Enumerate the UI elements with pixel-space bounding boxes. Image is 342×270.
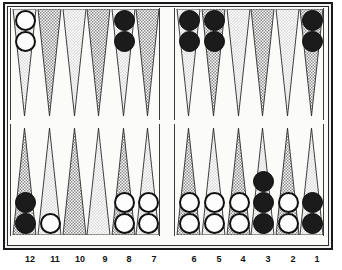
point-top_right-1[interactable] — [201, 9, 226, 117]
point-12[interactable] — [12, 127, 37, 235]
point-top_right-4[interactable] — [275, 9, 300, 117]
checker-black[interactable] — [253, 192, 274, 213]
point-top_right-3[interactable] — [250, 9, 275, 117]
checker-white[interactable] — [278, 192, 299, 213]
point-4[interactable] — [226, 127, 251, 235]
point-8[interactable] — [111, 127, 136, 235]
point-label-5: 5 — [208, 254, 230, 264]
point-label-10: 10 — [69, 254, 91, 264]
point-label-8: 8 — [118, 254, 140, 264]
point-1[interactable] — [299, 127, 324, 235]
checker-black[interactable] — [114, 10, 135, 31]
checker-white[interactable] — [15, 31, 36, 52]
checker-black[interactable] — [302, 31, 323, 52]
point-9[interactable] — [86, 127, 111, 235]
point-3[interactable] — [250, 127, 275, 235]
point-top_left-5[interactable] — [135, 9, 160, 117]
point-7[interactable] — [135, 127, 160, 235]
center-bar[interactable] — [160, 8, 174, 236]
checker-black[interactable] — [179, 31, 200, 52]
checker-black[interactable] — [204, 10, 225, 31]
checker-white[interactable] — [138, 192, 159, 213]
checker-white[interactable] — [204, 192, 225, 213]
top-right-quadrant — [174, 8, 324, 120]
point-5[interactable] — [201, 127, 226, 235]
bottom-left-quadrant — [10, 124, 160, 236]
checker-black[interactable] — [302, 10, 323, 31]
checker-black[interactable] — [204, 31, 225, 52]
checker-white[interactable] — [179, 192, 200, 213]
point-label-4: 4 — [232, 254, 254, 264]
point-top_right-5[interactable] — [299, 9, 324, 117]
checker-white[interactable] — [179, 213, 200, 234]
bottom-right-quadrant — [174, 124, 324, 236]
checker-black[interactable] — [15, 192, 36, 213]
checker-white[interactable] — [114, 192, 135, 213]
point-top_left-4[interactable] — [111, 9, 136, 117]
checker-white[interactable] — [138, 213, 159, 234]
point-top_left-3[interactable] — [86, 9, 111, 117]
checker-white[interactable] — [15, 10, 36, 31]
checker-black[interactable] — [253, 171, 274, 192]
backgammon-board: 121110987654321 — [0, 0, 342, 270]
point-label-1: 1 — [306, 254, 328, 264]
checker-black[interactable] — [15, 213, 36, 234]
checker-black[interactable] — [253, 213, 274, 234]
point-6[interactable] — [176, 127, 201, 235]
checker-white[interactable] — [229, 192, 250, 213]
point-top_left-2[interactable] — [62, 9, 87, 117]
point-label-2: 2 — [282, 254, 304, 264]
point-2[interactable] — [275, 127, 300, 235]
point-11[interactable] — [37, 127, 62, 235]
checker-white[interactable] — [204, 213, 225, 234]
checker-white[interactable] — [114, 213, 135, 234]
checker-white[interactable] — [278, 213, 299, 234]
point-number-labels: 121110987654321 — [0, 254, 342, 268]
point-label-6: 6 — [183, 254, 205, 264]
point-10[interactable] — [62, 127, 87, 235]
checker-white[interactable] — [229, 213, 250, 234]
point-top_left-0[interactable] — [12, 9, 37, 117]
checker-black[interactable] — [179, 10, 200, 31]
checker-white[interactable] — [40, 213, 61, 234]
point-top_right-2[interactable] — [226, 9, 251, 117]
point-label-3: 3 — [257, 254, 279, 264]
checker-black[interactable] — [302, 192, 323, 213]
checker-black[interactable] — [114, 31, 135, 52]
top-left-quadrant — [10, 8, 160, 120]
point-label-7: 7 — [143, 254, 165, 264]
point-label-9: 9 — [94, 254, 116, 264]
checker-black[interactable] — [302, 213, 323, 234]
point-label-12: 12 — [19, 254, 41, 264]
board-play-area — [10, 8, 326, 244]
point-top_left-1[interactable] — [37, 9, 62, 117]
point-label-11: 11 — [44, 254, 66, 264]
point-top_right-0[interactable] — [176, 9, 201, 117]
